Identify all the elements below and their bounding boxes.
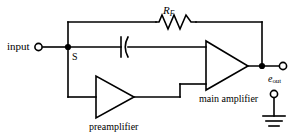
- output-terminal-circle[interactable]: [279, 62, 286, 69]
- feedback-resistor-label-subscript: F: [170, 9, 175, 18]
- feedback-resistor-zigzag: [156, 15, 196, 29]
- node-s-label: S: [72, 52, 78, 62]
- feedback-resistor-label: RF: [163, 5, 174, 17]
- junction-dot-output-node: [259, 63, 265, 69]
- output-voltage-label-subscript: out: [272, 77, 281, 84]
- ground-terminal-circle[interactable]: [270, 90, 277, 97]
- output-voltage-label: eout: [268, 74, 281, 85]
- main-amplifier-triangle: [206, 41, 248, 90]
- schematic-svg: [0, 0, 294, 140]
- input-label: input: [7, 41, 30, 52]
- preamplifier-label: preamplifier: [89, 122, 138, 132]
- preamplifier-triangle: [96, 76, 134, 118]
- circuit-diagram-figure: input S RF eout main amplifier preamplif…: [0, 0, 294, 140]
- input-terminal-circle[interactable]: [35, 43, 42, 50]
- main-amplifier-label: main amplifier: [199, 94, 258, 104]
- feedback-resistor-label-base: R: [163, 4, 170, 16]
- junction-dot-node-s: [65, 44, 71, 50]
